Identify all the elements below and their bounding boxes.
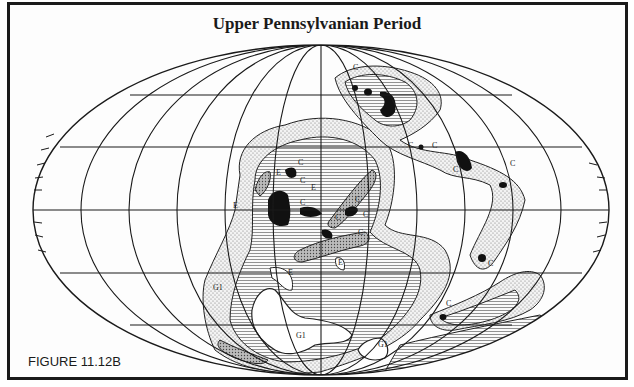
evaporite-label: E [311, 183, 316, 192]
glacial-label: G1 [213, 283, 223, 292]
coal-label: C [446, 299, 451, 308]
coal-label: C [453, 165, 458, 174]
evaporite-label: E [233, 201, 238, 210]
coal-label: C [358, 228, 363, 237]
glacial-label: G1 [296, 331, 306, 340]
coal-label: C [408, 141, 413, 150]
coal-label: C [432, 141, 437, 150]
coal-label: C [353, 63, 358, 72]
coal-label: C [300, 198, 305, 207]
evaporite-label: E [288, 268, 293, 277]
coal-label: C [335, 213, 340, 222]
figure-caption: FIGURE 11.12B [28, 354, 121, 369]
paleogeographic-map: C C C C C C C E E E C C C C C C C E E G1… [0, 0, 634, 387]
coal-label: C [488, 259, 493, 268]
coal-label: C [363, 210, 368, 219]
glacial-label: G1 [378, 340, 388, 349]
coal-label: C [510, 159, 515, 168]
coal-label: C [298, 158, 303, 167]
evaporite-label: E [338, 258, 343, 267]
coal-label: C [355, 195, 360, 204]
coal-label: C [300, 176, 305, 185]
evaporite-label: E [276, 168, 281, 177]
